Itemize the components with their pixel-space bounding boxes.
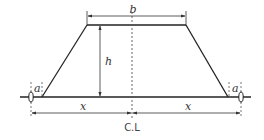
top-width-label: b	[129, 3, 136, 16]
right-half-base-label: x	[185, 100, 192, 113]
trapezoid-shape	[42, 25, 228, 97]
left-half-base-label: x	[80, 100, 87, 113]
right-marker	[239, 92, 243, 102]
left-slope	[42, 25, 87, 97]
right-offset-label: a	[232, 82, 239, 95]
left-marker	[29, 92, 33, 102]
centerline-label: C.L	[124, 122, 140, 133]
top-width-dimension: b	[87, 3, 186, 25]
height-label: h	[105, 55, 112, 68]
left-offset-label: a	[34, 82, 41, 95]
right-slope	[186, 25, 228, 97]
half-base-dimensions: x x	[32, 100, 240, 113]
height-dimension: h	[100, 26, 112, 96]
trapezoid-section-diagram: b h a a x x C.L	[0, 0, 264, 140]
